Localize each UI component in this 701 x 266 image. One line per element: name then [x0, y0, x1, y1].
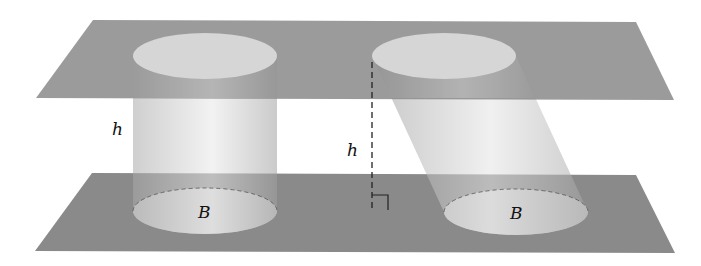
right-base-label: B	[509, 203, 523, 223]
left-base-label: B	[197, 202, 211, 222]
right-height-label: h	[347, 140, 358, 160]
left-top-ellipse	[133, 33, 277, 79]
top-plane	[36, 20, 674, 100]
right-top-ellipse	[372, 33, 516, 79]
left-height-label: h	[112, 119, 123, 139]
cavalieri-diagram: h B h B	[0, 0, 701, 266]
